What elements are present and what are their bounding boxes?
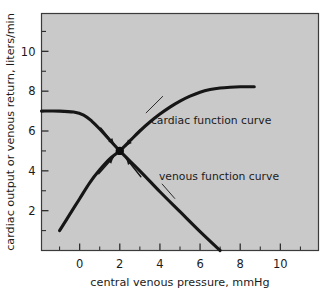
x-tick-label: 4 [156,257,163,271]
x-axis-title: central venous pressure, mmHg [90,276,269,288]
y-tick-label: 4 [28,164,35,178]
cardiac-function-curve-label: cardiac function curve [151,114,272,127]
y-tick-label: 2 [28,204,35,218]
y-tick-label: 8 [28,84,35,98]
x-tick-label: 8 [237,257,244,271]
x-tick-label: 10 [273,257,288,271]
y-tick-label: 6 [28,124,35,138]
y-tick-label: 10 [21,45,36,59]
x-tick-label: 0 [76,257,83,271]
chart-canvas: 0246810 246810 cardiac function curveven… [0,0,329,288]
y-axis-title: cardiac output or venous return, liters/… [4,13,17,251]
figure-container: 0246810 246810 cardiac function curveven… [0,0,329,288]
y-axis-tick-labels: 246810 [21,45,36,218]
x-tick-label: 2 [116,257,123,271]
x-tick-label: 6 [196,257,203,271]
equilibrium-point-marker [116,147,124,155]
plot-background [42,14,319,251]
venous-function-curve-label: venous function curve [159,170,280,183]
x-axis-tick-labels: 0246810 [76,257,288,271]
